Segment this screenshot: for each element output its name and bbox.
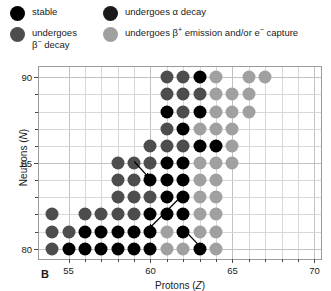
y-tick-81 bbox=[35, 232, 38, 233]
y-tick-label-90: 90 bbox=[12, 72, 32, 83]
x-tick-65 bbox=[232, 259, 233, 263]
nuclide-dot bbox=[242, 88, 255, 101]
nuclide-dot bbox=[111, 157, 124, 170]
x-axis-title: Protons (Z) bbox=[38, 280, 322, 291]
nuclide-dot bbox=[144, 191, 157, 204]
legend-item-beta-minus: undergoesβ− decay bbox=[10, 27, 77, 50]
nuclide-dot bbox=[242, 71, 255, 84]
nuclide-dot bbox=[177, 208, 190, 221]
nuclide-dot bbox=[226, 157, 239, 170]
legend-item-alpha: undergoes α decay bbox=[103, 6, 206, 21]
nuclide-dot bbox=[160, 88, 173, 101]
nuclide-dot bbox=[144, 139, 157, 152]
nuclide-dot bbox=[226, 122, 239, 135]
x-tick-64 bbox=[216, 259, 217, 262]
nuclide-dot bbox=[193, 71, 206, 84]
nuclide-dot bbox=[160, 122, 173, 135]
legend-item-stable: stable bbox=[10, 6, 57, 21]
legend-swatch-beta-minus bbox=[10, 27, 25, 42]
nuclide-dot bbox=[111, 174, 124, 187]
y-tick-87 bbox=[35, 129, 38, 130]
x-tick-label-60: 60 bbox=[145, 265, 156, 276]
x-tick-55 bbox=[69, 259, 70, 263]
x-tick-61 bbox=[167, 259, 168, 262]
x-tick-69 bbox=[298, 259, 299, 262]
plot-frame bbox=[38, 66, 322, 260]
y-tick-83 bbox=[35, 197, 38, 198]
nuclide-dot bbox=[144, 157, 157, 170]
nuclide-dot bbox=[46, 208, 59, 221]
panel-label: B bbox=[41, 268, 49, 280]
nuclide-dot bbox=[177, 139, 190, 152]
nuclide-dot bbox=[210, 191, 223, 204]
y-tick-89 bbox=[35, 94, 38, 95]
nuclide-dot bbox=[210, 122, 223, 135]
nuclide-dot bbox=[177, 157, 190, 170]
legend-swatch-alpha bbox=[103, 6, 118, 21]
x-tick-62 bbox=[183, 259, 184, 262]
y-tick-90 bbox=[34, 77, 38, 78]
y-tick-86 bbox=[35, 146, 38, 147]
nuclide-dot bbox=[160, 174, 173, 187]
nuclide-dot bbox=[193, 208, 206, 221]
x-tick-label-65: 65 bbox=[227, 265, 238, 276]
legend-item-beta-plus-ec: undergoes β+ emission and/or e− capture bbox=[103, 27, 298, 42]
x-tick-58 bbox=[118, 259, 119, 262]
nuclide-dot bbox=[160, 105, 173, 118]
legend-swatch-stable bbox=[10, 6, 25, 21]
x-tick-59 bbox=[134, 259, 135, 262]
x-tick-label-70: 70 bbox=[309, 265, 320, 276]
nuclide-dot bbox=[193, 174, 206, 187]
nuclide-dot bbox=[128, 225, 141, 238]
nuclide-dot bbox=[128, 157, 141, 170]
nuclide-dot bbox=[193, 191, 206, 204]
nuclide-dot bbox=[128, 174, 141, 187]
legend: stable undergoesβ− decay undergoes α dec… bbox=[0, 0, 331, 56]
nuclide-dot bbox=[128, 191, 141, 204]
y-tick-85 bbox=[34, 163, 38, 164]
nuclide-dot bbox=[111, 242, 124, 255]
nuclide-dot bbox=[160, 157, 173, 170]
nuclide-dot bbox=[177, 191, 190, 204]
nuclide-dot bbox=[193, 139, 206, 152]
legend-label-beta-plus-ec: undergoes β+ emission and/or e− capture bbox=[125, 27, 298, 39]
nuclide-dot bbox=[177, 174, 190, 187]
x-tick-68 bbox=[282, 259, 283, 262]
nuclide-dot bbox=[160, 208, 173, 221]
nuclide-dot bbox=[144, 208, 157, 221]
nuclide-dot bbox=[210, 88, 223, 101]
legend-swatch-beta-plus-ec bbox=[103, 27, 118, 42]
legend-label-alpha: undergoes α decay bbox=[125, 6, 206, 18]
nuclide-dot bbox=[177, 242, 190, 255]
nuclide-dot bbox=[144, 242, 157, 255]
nuclide-dot bbox=[160, 242, 173, 255]
chart-area: 55606570808590 Protons (Z) Neutrons (N) bbox=[0, 56, 331, 286]
nuclide-dot bbox=[210, 208, 223, 221]
legend-label-beta-minus: undergoesβ− decay bbox=[32, 27, 77, 50]
y-tick-80 bbox=[34, 249, 38, 250]
nuclide-dot bbox=[177, 71, 190, 84]
nuclide-dot bbox=[144, 174, 157, 187]
x-tick-56 bbox=[85, 259, 86, 262]
nuclide-dot bbox=[242, 105, 255, 118]
x-tick-57 bbox=[101, 259, 102, 262]
y-tick-label-80: 80 bbox=[12, 243, 32, 254]
nuclide-dot bbox=[210, 71, 223, 84]
nuclide-dot bbox=[210, 139, 223, 152]
nuclide-dot bbox=[210, 174, 223, 187]
nuclide-dot bbox=[46, 242, 59, 255]
nuclide-dot bbox=[111, 191, 124, 204]
x-tick-63 bbox=[200, 259, 201, 262]
nuclide-dot bbox=[193, 242, 206, 255]
nuclide-dot bbox=[160, 139, 173, 152]
nuclide-dot bbox=[78, 242, 91, 255]
x-tick-60 bbox=[150, 259, 151, 263]
y-tick-82 bbox=[35, 214, 38, 215]
x-tick-66 bbox=[249, 259, 250, 262]
nuclide-dot bbox=[193, 157, 206, 170]
nuclide-dot bbox=[177, 105, 190, 118]
nuclide-dot bbox=[160, 191, 173, 204]
nuclide-dot bbox=[160, 71, 173, 84]
nuclide-dot bbox=[95, 208, 108, 221]
nuclide-dot bbox=[210, 225, 223, 238]
